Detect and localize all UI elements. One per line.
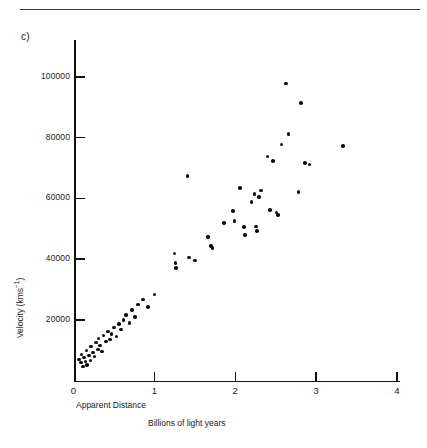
data-point (266, 155, 270, 159)
x-axis-title: Apparent Distance (76, 400, 146, 410)
data-point (100, 350, 104, 354)
y-tick-20000 (76, 319, 85, 321)
data-point (222, 221, 226, 225)
y-tick-40000 (76, 258, 85, 260)
y-tick-100000 (76, 76, 85, 78)
data-point (133, 315, 137, 319)
data-point (238, 186, 242, 190)
y-ticklabel-100000: 100000 (12, 71, 70, 81)
data-point (250, 200, 254, 204)
data-point (242, 225, 246, 229)
data-point (287, 132, 291, 136)
x-axis-units-label: Billions of light years (148, 418, 225, 428)
data-point (259, 189, 263, 193)
data-point (82, 356, 86, 360)
y-ticklabel-60000: 60000 (12, 192, 70, 202)
data-point (85, 349, 89, 353)
data-point (117, 322, 121, 326)
x-ticklabel-1: 1 (142, 385, 166, 396)
x-ticklabel-2: 2 (223, 385, 247, 396)
data-point (115, 335, 119, 339)
y-ticklabel-80000: 80000 (12, 132, 70, 142)
data-point (341, 144, 345, 148)
data-point (130, 308, 134, 312)
scatter-plot: 20000400006000080000100000 01234 Velocit… (0, 0, 427, 448)
data-point (173, 252, 177, 256)
data-point (122, 318, 126, 322)
data-point (87, 354, 91, 358)
data-point (153, 293, 157, 297)
data-point (271, 159, 275, 163)
data-point (193, 259, 197, 263)
data-point (303, 161, 307, 165)
data-point (89, 359, 93, 363)
x-tick-2 (235, 372, 237, 381)
data-point (136, 303, 140, 307)
data-point (146, 305, 150, 309)
data-point (110, 332, 114, 336)
y-ticklabel-40000: 40000 (12, 253, 70, 263)
data-point (243, 233, 247, 237)
data-point (141, 298, 145, 302)
data-point (174, 266, 178, 270)
data-point (276, 213, 280, 217)
data-point (112, 326, 116, 330)
data-point (284, 82, 288, 86)
data-point (233, 219, 237, 223)
data-point (98, 344, 102, 348)
data-point (108, 338, 112, 342)
data-point (254, 225, 258, 229)
data-point (91, 351, 95, 355)
x-ticklabel-4: 4 (385, 385, 409, 396)
data-point (94, 341, 98, 345)
data-point (211, 246, 215, 250)
data-point (308, 163, 312, 167)
data-point (206, 235, 210, 239)
data-point (124, 313, 128, 317)
data-point (93, 355, 97, 359)
data-point (257, 195, 261, 199)
y-axis-line (74, 40, 76, 382)
data-point (268, 208, 272, 212)
y-axis-title: Velocity (kms−1) (13, 263, 25, 353)
data-point (128, 321, 132, 325)
data-point (253, 192, 257, 196)
data-point (79, 361, 83, 365)
data-point (297, 190, 301, 194)
y-tick-80000 (76, 137, 85, 139)
x-axis-line (74, 381, 400, 383)
data-point (299, 101, 303, 105)
data-point (187, 256, 191, 260)
data-point (89, 345, 93, 349)
data-point (104, 340, 108, 344)
data-point (174, 261, 178, 265)
data-point (119, 328, 123, 332)
y-tick-60000 (76, 198, 85, 200)
x-ticklabel-3: 3 (304, 385, 328, 396)
x-tick-4 (396, 372, 398, 381)
x-ticklabel-0: 0 (62, 385, 86, 396)
x-tick-1 (154, 372, 156, 381)
data-point (280, 143, 284, 147)
data-point (231, 209, 235, 213)
data-point (85, 363, 89, 367)
data-point (186, 174, 190, 178)
x-tick-3 (315, 372, 317, 381)
data-point (102, 334, 106, 338)
data-point (255, 229, 259, 233)
data-point (97, 337, 101, 341)
data-point (96, 348, 100, 352)
